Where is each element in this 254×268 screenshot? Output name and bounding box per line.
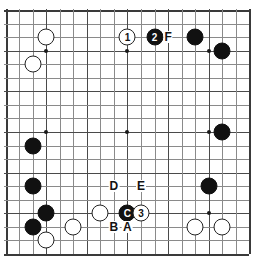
label-D: D [109,180,120,192]
black-stone[interactable] [214,42,231,59]
black-stone[interactable] [24,178,41,195]
go-diagram-root: 12C3 FDEBA [0,0,254,268]
go-board[interactable]: 12C3 FDEBA [4,9,249,254]
grid-line-horizontal [4,200,249,201]
black-stone[interactable] [187,29,204,46]
black-stone[interactable] [200,178,217,195]
black-stone[interactable] [214,123,231,140]
star-point [44,49,48,53]
grid-line-vertical [249,9,251,254]
star-point [44,130,48,134]
grid-line-vertical [195,9,196,254]
star-point [207,49,211,53]
grid-line-horizontal [4,173,249,174]
grid-line-vertical [155,9,156,254]
grid-line-horizontal [4,254,249,256]
white-stone[interactable] [24,56,41,73]
grid-line-vertical [168,9,169,254]
white-stone-1[interactable]: 1 [119,29,136,46]
white-stone[interactable] [38,232,55,249]
label-E: E [136,180,146,192]
grid-line-horizontal [4,159,249,160]
grid-line-vertical [182,9,183,254]
grid-line-vertical [236,9,237,254]
white-stone-3[interactable]: 3 [133,205,150,222]
star-point [207,211,211,215]
star-point [125,49,129,53]
star-point [125,130,129,134]
label-A: A [122,221,133,233]
white-stone[interactable] [187,218,204,235]
black-stone[interactable] [24,218,41,235]
white-stone[interactable] [92,205,109,222]
black-stone[interactable] [38,205,55,222]
white-stone[interactable] [38,29,55,46]
label-F: F [163,31,172,43]
white-stone[interactable] [214,218,231,235]
white-stone[interactable] [65,218,82,235]
label-B: B [109,221,120,233]
black-stone[interactable] [24,137,41,154]
black-stone-2[interactable]: 2 [146,29,163,46]
star-point [207,130,211,134]
